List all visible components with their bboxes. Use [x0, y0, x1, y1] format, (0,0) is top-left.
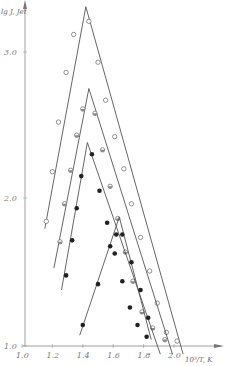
- series-line: [62, 143, 161, 355]
- series-curve-3: [62, 143, 161, 355]
- data-point-filled: [120, 279, 125, 284]
- data-point-filled: [112, 251, 117, 256]
- series-curve-1: [44, 0, 183, 354]
- data-point-filled: [135, 323, 140, 328]
- series-curve-2: [54, 89, 173, 355]
- x-tick-label: 2.0: [167, 351, 181, 360]
- data-point-filled: [129, 260, 134, 265]
- data-point-filled: [70, 238, 75, 243]
- data-point-filled: [144, 334, 149, 339]
- data-point-filled: [105, 221, 110, 226]
- data-point-filled: [128, 305, 133, 310]
- data-point-filled: [138, 288, 143, 293]
- y-tick-label: 2.0: [3, 194, 17, 203]
- data-point-filled: [146, 315, 151, 320]
- data-point-filled: [64, 273, 69, 278]
- arrhenius-chart: 1.01.21.41.61.82.0 1.02.03.0 lg J, Jet 1…: [0, 0, 226, 366]
- x-axis-arrow-icon: [214, 344, 224, 348]
- data-point-open: [103, 98, 107, 102]
- data-point-filled: [96, 282, 101, 287]
- x-tick-label: 1.8: [138, 351, 151, 360]
- x-tick-label: 1.6: [107, 351, 120, 360]
- y-ticks: 1.02.03.0: [3, 48, 27, 351]
- data-point-open: [71, 32, 75, 36]
- x-tick-label: 1.2: [46, 351, 59, 360]
- data-point-open: [87, 19, 91, 23]
- y-axis-title: lg J, Jet: [1, 8, 27, 16]
- x-tick-label: 1.0: [16, 351, 29, 360]
- data-point-filled: [81, 323, 86, 328]
- series-line: [45, 7, 183, 354]
- data-point-open: [113, 134, 117, 138]
- data-point-open: [129, 202, 133, 206]
- data-point-filled: [90, 152, 95, 157]
- data-point-open: [44, 219, 48, 223]
- x-tick-label: 1.4: [77, 351, 90, 360]
- data-point-filled: [120, 232, 125, 237]
- data-point-open: [50, 170, 54, 174]
- data-point-open: [175, 339, 179, 343]
- series-line: [54, 89, 173, 355]
- x-axis-title: 10³/T, K: [185, 356, 213, 364]
- data-point-open: [147, 269, 151, 273]
- y-tick-label: 3.0: [4, 48, 17, 57]
- data-point-filled: [108, 244, 113, 249]
- data-point-filled: [97, 188, 102, 193]
- series-layer: [44, 0, 183, 354]
- data-point-open: [64, 70, 68, 74]
- data-point-filled: [114, 232, 119, 237]
- data-point-open: [56, 120, 60, 124]
- data-point-open: [138, 235, 142, 239]
- data-point-open: [96, 60, 100, 64]
- data-point-filled: [74, 206, 79, 211]
- y-tick-label: 1.0: [4, 342, 17, 351]
- data-point-filled: [79, 174, 84, 179]
- data-point-open: [122, 167, 126, 171]
